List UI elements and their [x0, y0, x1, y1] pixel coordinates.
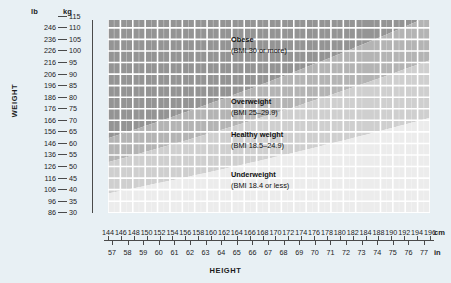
x-axis-tick-mark-in — [174, 241, 175, 245]
y-axis-tick-row: 13655 — [30, 150, 89, 159]
x-axis-tick-mark-in — [206, 241, 207, 245]
y-axis-tick-mark — [58, 212, 67, 213]
y-axis-tick-row: 17675 — [30, 104, 89, 113]
x-axis-tick-label-in: 77 — [412, 248, 436, 257]
y-axis-tick-label-kg: 60 — [69, 139, 89, 148]
x-axis-tick-mark-in — [128, 241, 129, 245]
x-axis-tick-mark-in — [237, 241, 238, 245]
y-axis-tick-mark — [58, 39, 67, 40]
y-axis-tick-mark — [58, 166, 67, 167]
y-axis-tick-label-kg: 75 — [69, 104, 89, 113]
y-axis-tick-label-lb: 216 — [30, 58, 56, 67]
y-axis-tick-label-lb: 166 — [30, 116, 56, 125]
y-axis-tick-row: 115 — [30, 12, 89, 21]
x-axis-tick-mark-in — [393, 241, 394, 245]
band-label-healthy-weight: Healthy weight (BMI 18.5–24.9) — [231, 129, 284, 151]
y-axis-tick-label-lb: 116 — [30, 174, 56, 183]
x-axis-tick-mark-in — [362, 241, 363, 245]
x-axis-title: HEIGHT — [0, 266, 451, 275]
x-axis-tick-mark-in — [159, 241, 160, 245]
y-axis-tick-label-lb: 136 — [30, 150, 56, 159]
y-axis-tick-mark — [58, 108, 67, 109]
y-axis-tick-row: 226100 — [30, 46, 89, 55]
y-axis-tick-label-lb: 96 — [30, 197, 56, 206]
y-axis-tick-label-lb: 206 — [30, 70, 56, 79]
y-axis-tick-label-kg: 80 — [69, 93, 89, 102]
x-axis-tick-mark-cm — [430, 236, 431, 240]
y-axis-tick-row: 246110 — [30, 23, 89, 32]
y-axis-tick-label-lb: 226 — [30, 46, 56, 55]
y-axis-tick-row: 18680 — [30, 93, 89, 102]
y-axis-line — [92, 20, 93, 213]
y-axis-tick-label-lb: 196 — [30, 81, 56, 90]
y-axis-tick-mark — [58, 27, 67, 28]
y-axis-tick-mark — [58, 201, 67, 202]
y-axis-tick-mark — [58, 178, 67, 179]
x-axis-tick-mark-in — [315, 241, 316, 245]
y-axis-tick-row: 9635 — [30, 197, 89, 206]
y-axis-tick-row: 236105 — [30, 35, 89, 44]
x-axis-tick-mark-in — [252, 241, 253, 245]
y-axis-tick-label-kg: 30 — [69, 208, 89, 217]
y-axis-tick-mark — [58, 85, 67, 86]
x-axis-tick-mark-in — [330, 241, 331, 245]
y-axis-tick-mark — [58, 131, 67, 132]
y-axis-tick-label-kg: 110 — [69, 23, 89, 32]
y-axis-tick-label-kg: 40 — [69, 185, 89, 194]
band-label-obese: Obese (BMI 30 or more) — [231, 34, 287, 56]
y-axis-tick-mark — [58, 189, 67, 190]
y-axis-tick-label-kg: 115 — [69, 12, 89, 21]
y-axis-tick-label-lb: 106 — [30, 185, 56, 194]
y-axis-tick-mark — [58, 154, 67, 155]
x-axis-unit-in: in — [434, 248, 441, 257]
y-axis-tick-label-lb: 156 — [30, 127, 56, 136]
y-axis-tick-mark — [58, 120, 67, 121]
y-axis-tick-mark — [58, 62, 67, 63]
y-axis-tick-label-kg: 45 — [69, 174, 89, 183]
x-axis-tick-mark-in — [284, 241, 285, 245]
y-axis-tick-label-kg: 55 — [69, 150, 89, 159]
x-axis-tick-mark-in — [408, 241, 409, 245]
x-axis-tick-mark-in — [377, 241, 378, 245]
x-axis-tick-mark-in — [112, 241, 113, 245]
y-axis-title: WEIGHT — [10, 75, 19, 127]
y-axis-tick-mark — [58, 50, 67, 51]
y-axis-tick-row: 20690 — [30, 70, 89, 79]
x-axis-tick-mark-in — [221, 241, 222, 245]
y-axis-tick-row: 14660 — [30, 139, 89, 148]
x-axis-unit-cm: cm — [434, 228, 445, 237]
y-axis-tick-row: 12650 — [30, 162, 89, 171]
y-axis-tick-label-kg: 50 — [69, 162, 89, 171]
y-axis-tick-label-kg: 90 — [69, 70, 89, 79]
y-axis-tick-label-lb: 186 — [30, 93, 56, 102]
band-label-underweight: Underweight (BMI 18.4 or less) — [231, 169, 289, 191]
band-label-overweight: Overweight (BMI 25–29.9) — [231, 96, 278, 118]
x-axis-line — [104, 240, 434, 241]
y-axis-tick-label-kg: 70 — [69, 116, 89, 125]
y-axis-tick-mark — [58, 143, 67, 144]
x-axis-tick-mark-in — [143, 241, 144, 245]
y-axis-tick-label-kg: 85 — [69, 81, 89, 90]
y-axis-tick-label-kg: 65 — [69, 127, 89, 136]
y-axis-tick-label-lb: 236 — [30, 35, 56, 44]
y-axis-tick-row: 10640 — [30, 185, 89, 194]
y-axis-tick-row: 21695 — [30, 58, 89, 67]
y-axis-tick-mark — [58, 16, 67, 17]
y-axis-tick-row: 8630 — [30, 208, 89, 217]
y-axis-tick-row: 11645 — [30, 174, 89, 183]
y-axis-tick-label-kg: 95 — [69, 58, 89, 67]
y-axis-tick-mark — [58, 74, 67, 75]
y-axis-tick-mark — [58, 97, 67, 98]
x-axis-tick-mark-in — [424, 241, 425, 245]
y-axis-tick-row: 15665 — [30, 127, 89, 136]
y-axis-tick-label-lb: 176 — [30, 104, 56, 113]
y-axis-tick-label-kg: 100 — [69, 46, 89, 55]
y-axis-tick-label-lb: 246 — [30, 23, 56, 32]
x-axis-tick-mark-in — [346, 241, 347, 245]
y-axis-tick-label-kg: 35 — [69, 197, 89, 206]
x-axis-tick-mark-in — [190, 241, 191, 245]
x-axis-tick-mark-in — [299, 241, 300, 245]
y-axis-tick-label-lb: 126 — [30, 162, 56, 171]
y-axis-tick-label-lb: 146 — [30, 139, 56, 148]
y-axis-tick-label-kg: 105 — [69, 35, 89, 44]
